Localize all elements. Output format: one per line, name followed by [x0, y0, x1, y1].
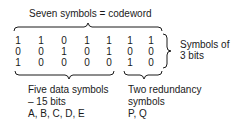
bit: 0 — [126, 46, 134, 57]
bit: 0 — [37, 46, 45, 57]
redundancy-symbols-line: Two redundancy — [128, 84, 201, 95]
bit: 1 — [147, 35, 155, 46]
bit: 0 — [60, 35, 68, 46]
bit: 1 — [83, 35, 91, 46]
bit: 0 — [105, 57, 113, 68]
bit: 1 — [126, 57, 134, 68]
bit: 1 — [37, 35, 45, 46]
bit: 0 — [83, 46, 91, 57]
bit: 1 — [60, 46, 68, 57]
data-symbols-line: – 15 bits — [28, 96, 66, 107]
bit: 0 — [60, 57, 68, 68]
data-symbols-line: Five data symbols — [28, 84, 109, 95]
redundancy-symbols-line: P, Q — [128, 108, 147, 119]
bit: 1 — [105, 35, 113, 46]
bit: 0 — [147, 57, 155, 68]
redundancy-symbols-line: symbols — [128, 96, 165, 107]
data-symbols-line: A, B, C, D, E — [28, 108, 85, 119]
bit: 1 — [14, 35, 22, 46]
bit: 0 — [147, 46, 155, 57]
bit: 0 — [37, 57, 45, 68]
bit: 0 — [83, 57, 91, 68]
bit: 1 — [126, 35, 134, 46]
symbol-size-line: Symbols of — [180, 39, 229, 50]
bit: 1 — [14, 57, 22, 68]
bit: 1 — [105, 46, 113, 57]
bit: 0 — [14, 46, 22, 57]
symbol-size-line: 3 bits — [180, 50, 204, 61]
